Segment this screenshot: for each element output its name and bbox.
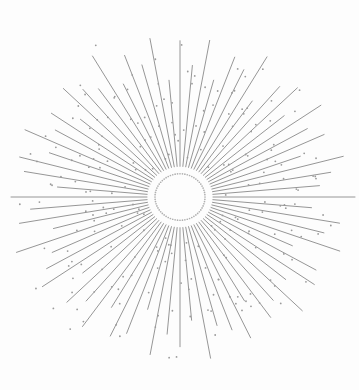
speckle-dot bbox=[50, 183, 52, 185]
ring-dot bbox=[170, 218, 172, 220]
ring-dot bbox=[154, 194, 156, 196]
speckle-dot bbox=[72, 117, 74, 119]
speckle-dot bbox=[259, 302, 261, 304]
speckle-dot bbox=[158, 125, 160, 127]
speckle-dot bbox=[82, 321, 84, 323]
speckle-dot bbox=[92, 200, 94, 202]
speckle-dot bbox=[285, 207, 287, 209]
ring-dot bbox=[167, 176, 169, 178]
speckle-dot bbox=[248, 209, 250, 211]
speckle-dot bbox=[299, 89, 301, 91]
speckle-dot bbox=[174, 134, 176, 136]
speckle-dot bbox=[96, 119, 98, 121]
speckle-dot bbox=[143, 229, 145, 231]
speckle-dot bbox=[314, 176, 316, 178]
speckle-dot bbox=[98, 144, 100, 146]
speckle-dot bbox=[137, 122, 139, 124]
speckle-dot bbox=[269, 120, 271, 122]
speckle-dot bbox=[284, 204, 286, 206]
speckle-dot bbox=[67, 250, 69, 252]
speckle-dot bbox=[76, 230, 78, 232]
ring-dot bbox=[201, 207, 203, 209]
speckle-dot bbox=[322, 214, 324, 216]
speckle-dot bbox=[115, 324, 117, 326]
speckle-dot bbox=[176, 356, 178, 358]
speckle-dot bbox=[165, 237, 167, 239]
speckle-dot bbox=[157, 315, 159, 317]
speckle-dot bbox=[294, 203, 296, 205]
speckle-dot bbox=[274, 160, 276, 162]
speckle-dot bbox=[211, 225, 213, 227]
speckle-dot bbox=[250, 293, 252, 295]
speckle-dot bbox=[235, 303, 237, 305]
ring-dot bbox=[177, 219, 179, 221]
ring-dot bbox=[200, 209, 202, 211]
speckle-dot bbox=[88, 166, 90, 168]
speckle-dot bbox=[207, 166, 209, 168]
ring-dot bbox=[154, 196, 156, 198]
ring-dot bbox=[172, 218, 174, 220]
speckle-dot bbox=[111, 286, 113, 288]
speckle-dot bbox=[237, 296, 239, 298]
speckle-dot bbox=[72, 277, 74, 279]
speckle-dot bbox=[214, 334, 216, 336]
speckle-dot bbox=[168, 357, 170, 359]
speckle-dot bbox=[255, 124, 257, 126]
ring-dot bbox=[155, 189, 157, 191]
speckle-dot bbox=[71, 159, 73, 161]
speckle-dot bbox=[80, 264, 82, 266]
speckle-dot bbox=[36, 161, 38, 163]
speckle-dot bbox=[180, 282, 182, 284]
speckle-dot bbox=[222, 215, 224, 217]
ring-dot bbox=[156, 205, 158, 207]
speckle-dot bbox=[274, 233, 276, 235]
speckle-dot bbox=[194, 75, 196, 77]
speckle-dot bbox=[164, 261, 166, 263]
ring-dot bbox=[204, 201, 206, 203]
speckle-dot bbox=[203, 110, 205, 112]
ring-dot bbox=[156, 187, 158, 189]
speckle-dot bbox=[283, 178, 285, 180]
ring-dot bbox=[204, 192, 206, 194]
speckle-dot bbox=[110, 246, 112, 248]
ring-dot bbox=[161, 180, 163, 182]
speckle-dot bbox=[130, 118, 132, 120]
speckle-dot bbox=[190, 278, 192, 280]
ring-dot bbox=[184, 219, 186, 221]
speckle-dot bbox=[186, 242, 188, 244]
speckle-dot bbox=[187, 71, 189, 73]
ring-dot bbox=[204, 196, 206, 198]
speckle-dot bbox=[228, 164, 230, 166]
ring-dot bbox=[195, 178, 197, 180]
speckle-dot bbox=[144, 117, 146, 119]
speckle-dot bbox=[134, 256, 136, 258]
speckle-dot bbox=[107, 160, 109, 162]
speckle-dot bbox=[101, 135, 103, 137]
speckle-dot bbox=[181, 44, 183, 46]
ring-dot bbox=[198, 211, 200, 213]
speckle-dot bbox=[117, 288, 119, 290]
ring-dot bbox=[204, 194, 206, 196]
speckle-dot bbox=[312, 175, 314, 177]
speckle-dot bbox=[283, 253, 285, 255]
speckle-dot bbox=[213, 294, 215, 296]
speckle-dot bbox=[85, 191, 87, 193]
speckle-dot bbox=[225, 194, 227, 196]
speckle-dot bbox=[229, 296, 231, 298]
speckle-dot bbox=[210, 310, 212, 312]
speckle-dot bbox=[280, 164, 282, 166]
speckle-dot bbox=[148, 292, 150, 294]
ring-dot bbox=[155, 203, 157, 205]
ring-dot bbox=[174, 219, 176, 221]
speckle-dot bbox=[93, 158, 95, 160]
speckle-dot bbox=[247, 155, 249, 157]
speckle-dot bbox=[237, 68, 239, 70]
ring-dot bbox=[200, 183, 202, 185]
speckle-dot bbox=[121, 225, 123, 227]
speckle-dot bbox=[263, 171, 265, 173]
ring-dot bbox=[197, 213, 199, 215]
speckle-dot bbox=[94, 230, 96, 232]
speckle-dot bbox=[248, 230, 250, 232]
speckle-dot bbox=[76, 309, 78, 311]
speckle-dot bbox=[171, 122, 173, 124]
